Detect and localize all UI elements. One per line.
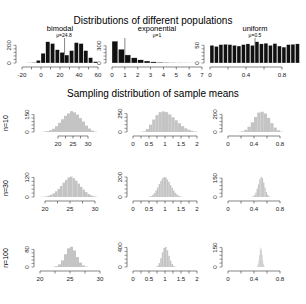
- histogram-bar: [165, 247, 167, 267]
- histogram-bar: [274, 128, 277, 132]
- histogram-bar: [259, 255, 260, 267]
- histogram-bar: [171, 117, 174, 132]
- histogram-bar: [175, 193, 177, 197]
- histogram-bar: [157, 266, 159, 267]
- y-tick-label: 120: [23, 172, 30, 183]
- x-tick-label: 2: [136, 71, 140, 78]
- histogram-bar: [85, 126, 88, 132]
- histogram-bar: [155, 115, 158, 132]
- x-tick-label: 1.5: [177, 275, 186, 282]
- histogram-bar: [73, 112, 76, 132]
- histogram-bar: [178, 196, 180, 197]
- histogram-bar: [163, 177, 165, 197]
- x-tick-label: 2: [195, 275, 199, 282]
- x-tick-label: 0: [131, 275, 135, 282]
- y-tick-label: 0: [211, 195, 218, 199]
- histogram-bar: [254, 195, 255, 197]
- x-tick-label: 1.5: [177, 140, 186, 147]
- histogram-bar: [179, 196, 181, 197]
- histogram-bar: [173, 191, 175, 198]
- histogram-bar: [125, 55, 131, 63]
- histogram-bar: [255, 193, 256, 197]
- x-tick-label: 30: [85, 140, 92, 147]
- panel-population-exponential: 012345670300exponentialμ=1: [95, 24, 204, 78]
- histogram-bar: [83, 190, 86, 197]
- histogram-bar: [85, 192, 88, 197]
- panels-group: -2002040600200bimodalμ=24.8012345670300e…: [2, 24, 299, 282]
- histogram-bar: [167, 250, 169, 267]
- histogram-bar: [82, 265, 85, 267]
- x-tick-label: 0.5: [145, 205, 154, 212]
- histogram-bar: [170, 185, 172, 197]
- histogram-bar: [70, 111, 73, 132]
- histogram-bar: [149, 125, 152, 132]
- histogram-bar: [219, 45, 223, 63]
- x-tick-label: 0.5: [145, 275, 154, 282]
- x-tick-label: 20: [55, 140, 62, 147]
- histogram-bar: [89, 58, 93, 63]
- histogram-bar: [267, 195, 268, 197]
- histogram-bar: [162, 111, 165, 132]
- histogram-bar: [88, 129, 91, 132]
- histogram-bar: [181, 126, 184, 132]
- histogram-bar: [112, 41, 118, 63]
- histogram-bar: [260, 44, 264, 63]
- histogram-bar: [159, 263, 161, 267]
- histogram-bar: [70, 51, 74, 63]
- mean-annotation: μ=1: [153, 32, 162, 38]
- histogram-bar: [244, 130, 247, 132]
- histogram-bar: [173, 266, 175, 267]
- x-tick-label: 60: [95, 71, 102, 78]
- panel-n100-bimodal: 202530080n=100: [2, 245, 104, 282]
- y-tick-label: 0: [116, 265, 123, 269]
- histogram-bar: [168, 114, 171, 132]
- x-tick-label: 2: [195, 140, 199, 147]
- histogram-bar: [70, 177, 73, 197]
- x-tick-label: 25: [67, 205, 74, 212]
- histogram-bar: [76, 115, 79, 132]
- histogram-bar: [68, 177, 71, 197]
- histogram-bar: [91, 131, 94, 132]
- y-tick-label: 0: [211, 265, 218, 269]
- histogram-bar: [255, 42, 259, 63]
- histogram-bar: [261, 112, 264, 132]
- histogram-bar: [258, 264, 259, 267]
- histogram-bar: [60, 186, 63, 197]
- x-tick-label: 1: [123, 71, 127, 78]
- histogram-bar: [257, 113, 260, 132]
- histogram-bar: [79, 118, 82, 132]
- histogram-bar: [253, 196, 254, 197]
- panel-n10-exponential: 00.511.520250: [116, 108, 199, 147]
- histogram-bar: [60, 52, 64, 63]
- histogram-bar: [171, 264, 173, 267]
- histogram-bar: [76, 257, 79, 267]
- histogram-bar: [73, 178, 76, 197]
- histogram-bar: [46, 42, 50, 63]
- histogram-bar: [287, 45, 291, 63]
- mean-annotation: μ=24.8: [56, 32, 72, 38]
- histogram-bar: [260, 250, 261, 267]
- histogram-bar: [93, 196, 96, 197]
- histogram-bar: [210, 45, 214, 63]
- histogram-bar: [159, 112, 162, 132]
- histogram-bar: [51, 44, 55, 63]
- x-tick-label: 2: [195, 205, 199, 212]
- x-tick-label: 0.5: [145, 140, 154, 147]
- histogram-bar: [251, 122, 254, 132]
- histogram-bar: [61, 119, 64, 132]
- histogram-bar: [264, 43, 268, 63]
- x-tick-label: 6: [187, 71, 191, 78]
- histogram-bar: [61, 260, 64, 267]
- histogram-bar: [259, 261, 260, 267]
- histogram-bar: [254, 117, 257, 132]
- x-tick-label: 0.8: [276, 275, 285, 282]
- panel-n10-uniform: 00.40.80200: [211, 109, 285, 147]
- panel-n10-bimodal: 2025300150n=10: [2, 109, 97, 147]
- histogram-bar: [151, 62, 157, 63]
- x-tick-label: 0.4: [250, 205, 259, 212]
- histogram-bar: [46, 131, 49, 132]
- histogram-bar: [160, 181, 162, 197]
- histogram-bar: [277, 130, 280, 132]
- histogram-bar: [73, 251, 76, 268]
- histogram-bar: [165, 178, 167, 198]
